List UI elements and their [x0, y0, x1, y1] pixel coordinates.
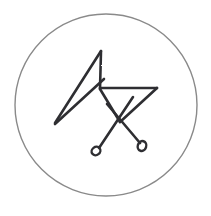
- sigil-svg: [0, 0, 211, 216]
- sigil-image: A dark ink sigil drawn inside a thin gra…: [0, 0, 211, 216]
- apex-descender: [100, 51, 101, 89]
- background: [0, 0, 211, 216]
